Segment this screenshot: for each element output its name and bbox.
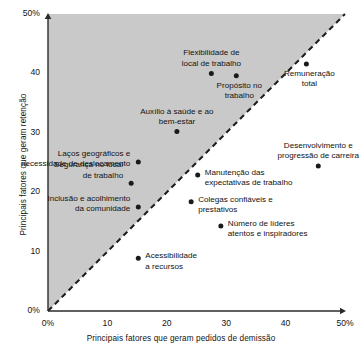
point-label: Auxílio à saúde e aobem-estar [97, 107, 257, 128]
y-tick-label: 10 [0, 246, 40, 256]
point-label: Colegas confiáveis eprestativos [198, 195, 362, 216]
data-point [304, 61, 309, 66]
data-point [136, 256, 141, 261]
y-tick-label: 30 [0, 127, 40, 137]
y-tick-label: 0% [0, 305, 40, 315]
data-point [136, 159, 141, 164]
x-tick-label: 50% [323, 318, 362, 328]
x-axis-title: Principais fatores que geram pedidos de … [0, 334, 362, 343]
x-tick-label: 30 [204, 318, 248, 328]
point-label: Inclusão e acolhimentoda comunidade [0, 194, 130, 215]
y-tick-label: 50% [0, 8, 40, 18]
x-tick-label: 0% [26, 318, 70, 328]
data-point [129, 181, 134, 186]
y-tick-label: 40 [0, 67, 40, 77]
point-label: Remuneraçãototal [229, 69, 362, 90]
point-label: Manutenção dasexpectativas de trabalho [205, 168, 362, 189]
data-point [195, 172, 200, 177]
x-tick-label: 40 [264, 318, 308, 328]
point-label: Número de líderesatentos e inspiradores [228, 219, 362, 240]
data-point [136, 205, 141, 210]
x-tick-label: 10 [85, 318, 129, 328]
data-point [174, 129, 179, 134]
scatter-chart: Principais fatores que geram pedidos de … [0, 0, 362, 349]
data-point [209, 71, 214, 76]
data-point [189, 199, 194, 204]
data-point [218, 224, 223, 229]
point-label: Acessibilidadea recursos [145, 251, 362, 272]
point-label: Flexibilidade delocal de trabalho [131, 48, 291, 69]
x-tick-label: 20 [145, 318, 189, 328]
point-label: Segurança no localde trabalho [0, 160, 123, 181]
point-label: Desenvolvimento eprogressão de carreira [238, 141, 362, 162]
